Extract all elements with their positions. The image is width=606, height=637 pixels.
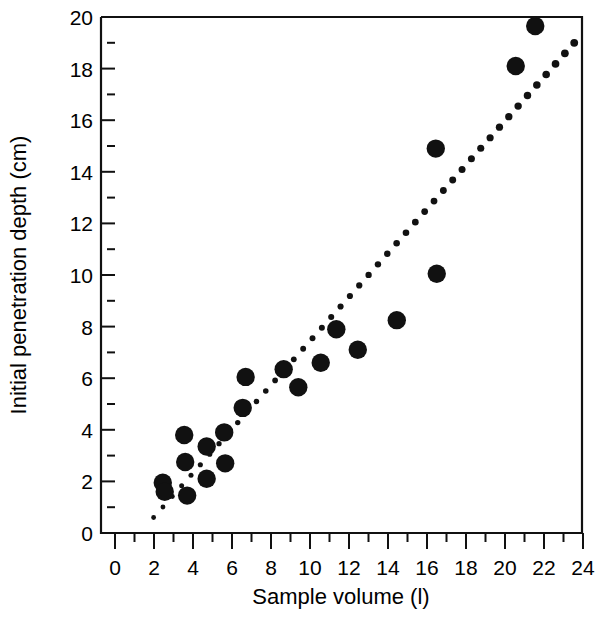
trendline-dot (440, 187, 447, 194)
data-point (197, 470, 215, 488)
data-point (349, 341, 367, 359)
trendline-dot (477, 145, 484, 152)
x-tick-label: 24 (571, 556, 595, 579)
trendline-dot (216, 441, 221, 446)
trendline-dot (403, 229, 410, 236)
data-point (234, 399, 252, 417)
trendline-dot (514, 102, 521, 109)
data-point (289, 378, 307, 396)
trendline-dot (459, 166, 466, 173)
data-point (327, 320, 345, 338)
y-axis-ticks (101, 17, 115, 533)
x-tick-label: 2 (148, 556, 160, 579)
trendline-dot (198, 462, 203, 467)
trendline-dot (412, 219, 419, 226)
data-point (197, 437, 215, 455)
trendline-dot (328, 314, 334, 320)
trendline-dot (375, 261, 381, 267)
trendline-dot (552, 60, 560, 68)
trendline-dot (310, 335, 316, 341)
x-axis-tick-labels: 024681012141618202224 (109, 556, 595, 579)
x-tick-label: 14 (376, 556, 400, 579)
y-tick-label: 4 (81, 419, 93, 442)
x-tick-label: 0 (109, 556, 121, 579)
data-point (274, 360, 292, 378)
trendline-dot (347, 293, 353, 299)
plot-canvas: 02468101214161820 024681012141618202224 … (0, 0, 606, 637)
x-tick-label: 18 (454, 556, 477, 579)
data-point (215, 423, 233, 441)
trendline-dot (188, 473, 193, 478)
trendline-dot (542, 71, 550, 79)
y-tick-label: 12 (70, 212, 93, 235)
trendline-dot (533, 81, 541, 89)
trendline-dot (570, 39, 578, 47)
y-tick-label: 20 (70, 6, 93, 29)
trendline-dot (161, 505, 166, 510)
y-tick-label: 8 (81, 316, 93, 339)
y-tick-label: 10 (70, 264, 93, 287)
trendline-dot (431, 198, 438, 205)
trendline-dot (524, 92, 531, 99)
trendline-dot (272, 378, 278, 384)
data-point (427, 139, 445, 157)
data-point (176, 453, 194, 471)
x-axis-title: Sample volume (l) (252, 584, 429, 609)
trendline-dot (421, 208, 428, 215)
trendline-dot (561, 49, 569, 57)
x-tick-label: 22 (532, 556, 555, 579)
scatter-plot-figure: 02468101214161820 024681012141618202224 … (0, 0, 606, 637)
trendline-dot (300, 346, 306, 352)
trendline-dot (235, 420, 240, 425)
scatter-data-points (154, 17, 545, 505)
y-tick-label: 14 (70, 161, 94, 184)
trendline-dot (254, 399, 260, 405)
trendline-dot (496, 124, 503, 131)
data-point (156, 483, 174, 501)
x-tick-label: 4 (187, 556, 199, 579)
trendline-dot (319, 325, 325, 331)
trendline-dot (505, 113, 512, 120)
trendline-dot (337, 303, 343, 309)
trendline-dot (291, 356, 297, 362)
data-point (175, 426, 193, 444)
y-axis-tick-labels: 02468101214161820 (70, 6, 94, 545)
x-tick-label: 6 (226, 556, 238, 579)
trendline-dot (449, 176, 456, 183)
x-axis-ticks (115, 533, 583, 549)
y-tick-label: 6 (81, 367, 93, 390)
trendline-dot (356, 282, 362, 288)
x-tick-label: 12 (337, 556, 360, 579)
data-point (312, 354, 330, 372)
data-point (178, 486, 196, 504)
trendline-dot (263, 388, 269, 394)
x-tick-label: 20 (493, 556, 516, 579)
data-point (236, 368, 254, 386)
trendline-dot (384, 251, 390, 257)
trendline-dot (151, 515, 156, 520)
trendline-dot (365, 272, 371, 278)
data-point (388, 311, 406, 329)
data-point (526, 17, 544, 35)
x-tick-label: 16 (415, 556, 438, 579)
trendline-dot (487, 134, 494, 141)
y-tick-label: 16 (70, 109, 93, 132)
data-point (428, 265, 446, 283)
plot-frame (101, 17, 582, 533)
y-tick-label: 18 (70, 58, 93, 81)
trendline-dot (468, 155, 475, 162)
trendline-dot (393, 240, 400, 247)
x-tick-label: 10 (298, 556, 321, 579)
y-tick-label: 0 (81, 522, 93, 545)
x-tick-label: 8 (265, 556, 277, 579)
y-tick-label: 2 (81, 470, 93, 493)
data-point (507, 57, 525, 75)
data-point (216, 454, 234, 472)
y-axis-title: Initial penetration depth (cm) (6, 136, 31, 415)
